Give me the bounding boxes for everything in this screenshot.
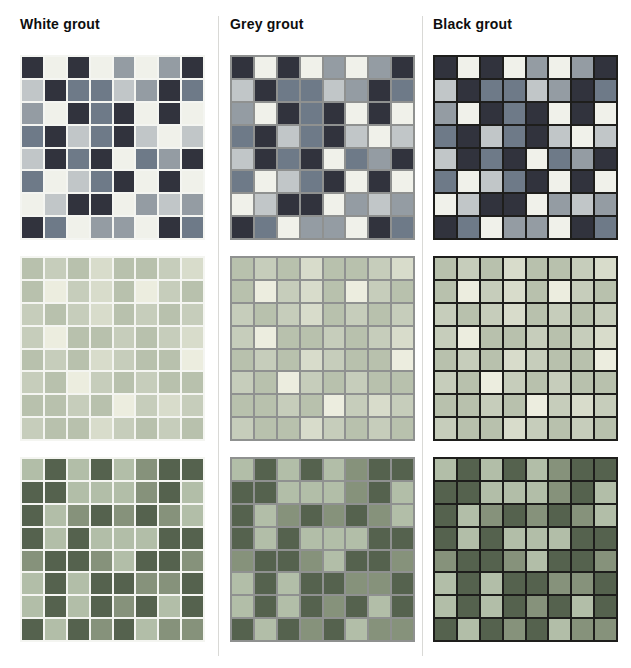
mosaic-tile	[392, 327, 413, 348]
mosaic-tile	[278, 149, 299, 170]
mosaic-tile	[458, 528, 479, 549]
mosaic-tile	[481, 126, 502, 147]
mosaic-tile	[232, 418, 253, 439]
mosaic-tile	[182, 217, 203, 238]
mosaic-tile	[549, 372, 570, 393]
mosaic-tile	[45, 327, 66, 348]
mosaic-tile	[369, 551, 390, 572]
mosaic-tile	[572, 171, 593, 192]
mosaic-tile	[301, 596, 322, 617]
mosaic-tile	[504, 573, 525, 594]
mosaic-tile	[278, 573, 299, 594]
mosaic-tile	[595, 258, 616, 279]
mosaic-tile	[392, 528, 413, 549]
mosaic-tile	[136, 505, 157, 526]
mosaic-tile	[595, 327, 616, 348]
mosaic-tile	[278, 418, 299, 439]
mosaic-tile	[91, 171, 112, 192]
mosaic-tile	[68, 505, 89, 526]
mosaic-tile	[301, 217, 322, 238]
mosaic-tile	[481, 551, 502, 572]
mosaic-tile	[182, 596, 203, 617]
mosaic-tile	[324, 573, 345, 594]
mosaic-tile	[504, 528, 525, 549]
mosaic-tile	[182, 505, 203, 526]
mosaic-tile	[301, 459, 322, 480]
mosaic-tile	[182, 80, 203, 101]
mosaic-tile	[392, 418, 413, 439]
mosaic-tile	[458, 194, 479, 215]
mosaic-tile	[159, 596, 180, 617]
mosaic-tile	[527, 573, 548, 594]
mosaic-tile	[255, 171, 276, 192]
mosaic-tile	[324, 619, 345, 640]
swatch-blue-mosaic-white-grout	[20, 55, 205, 240]
mosaic-tile	[458, 281, 479, 302]
mosaic-tile	[22, 258, 43, 279]
mosaic-tile	[136, 482, 157, 503]
swatch-blue-mosaic-black-grout	[433, 55, 618, 240]
mosaic-tile	[278, 395, 299, 416]
mosaic-tile	[114, 459, 135, 480]
mosaic-tile	[549, 418, 570, 439]
mosaic-tile	[572, 395, 593, 416]
mosaic-tile	[595, 149, 616, 170]
mosaic-tile	[114, 327, 135, 348]
mosaic-tile	[458, 459, 479, 480]
mosaic-tile	[45, 596, 66, 617]
mosaic-tile	[324, 395, 345, 416]
mosaic-tile	[68, 304, 89, 325]
mosaic-tile	[549, 459, 570, 480]
mosaic-tile	[527, 217, 548, 238]
mosaic-tile	[91, 149, 112, 170]
mosaic-tile	[182, 103, 203, 124]
mosaic-tile	[68, 327, 89, 348]
mosaic-tile	[572, 372, 593, 393]
mosaic-tile	[68, 482, 89, 503]
mosaic-tile	[136, 171, 157, 192]
mosaic-tile	[114, 573, 135, 594]
mosaic-tile	[504, 194, 525, 215]
mosaic-tile	[346, 395, 367, 416]
mosaic-tile	[481, 149, 502, 170]
mosaic-tile	[435, 482, 456, 503]
mosaic-tile	[458, 327, 479, 348]
mosaic-tile	[278, 57, 299, 78]
mosaic-tile	[369, 126, 390, 147]
mosaic-tile	[549, 217, 570, 238]
mosaic-tile	[136, 573, 157, 594]
mosaic-tile	[481, 505, 502, 526]
mosaic-tile	[549, 194, 570, 215]
mosaic-tile	[114, 80, 135, 101]
mosaic-tile	[45, 194, 66, 215]
mosaic-tile	[68, 103, 89, 124]
mosaic-tile	[278, 327, 299, 348]
mosaic-tile	[22, 596, 43, 617]
mosaic-tile	[324, 372, 345, 393]
mosaic-tile	[255, 505, 276, 526]
mosaic-tile	[392, 171, 413, 192]
mosaic-tile	[136, 281, 157, 302]
mosaic-tile	[301, 619, 322, 640]
mosaic-tile	[346, 304, 367, 325]
mosaic-tile	[159, 573, 180, 594]
column-header-grey-grout: Grey grout	[230, 16, 304, 32]
mosaic-tile	[346, 281, 367, 302]
mosaic-tile	[549, 258, 570, 279]
mosaic-tile	[182, 395, 203, 416]
mosaic-tile	[136, 217, 157, 238]
mosaic-tile	[324, 171, 345, 192]
mosaic-tile	[369, 80, 390, 101]
mosaic-tile	[68, 258, 89, 279]
mosaic-tile	[458, 350, 479, 371]
mosaic-tile	[549, 573, 570, 594]
mosaic-tile	[458, 505, 479, 526]
mosaic-tile	[435, 217, 456, 238]
mosaic-tile	[91, 80, 112, 101]
mosaic-tile	[159, 57, 180, 78]
mosaic-tile	[595, 573, 616, 594]
mosaic-tile	[114, 619, 135, 640]
mosaic-tile	[369, 103, 390, 124]
mosaic-tile	[159, 281, 180, 302]
mosaic-tile	[68, 528, 89, 549]
